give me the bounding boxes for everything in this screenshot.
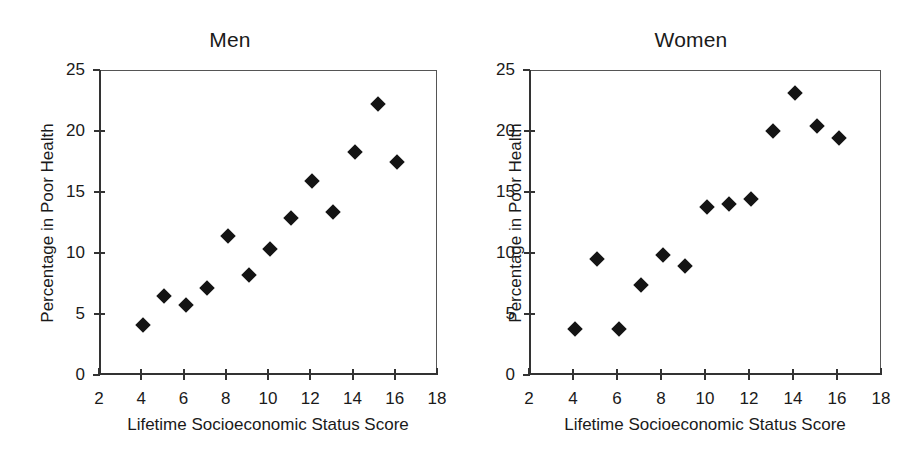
x-tick-label-men-12: 12 [301,389,320,409]
y-tick-women-10 [524,252,535,254]
y-tick-women-20 [524,130,535,132]
y-axis-line-women [529,70,531,375]
x-tick-label-women-12: 12 [740,389,759,409]
y-tick-label-men-10: 10 [25,243,85,263]
x-tick-label-women-4: 4 [568,389,577,409]
plot-area-men: 051015202524681012141618 [99,70,437,375]
x-tick-women-2 [528,368,530,375]
data-point [677,259,693,275]
data-point [241,267,257,283]
x-tick-women-10 [704,369,706,380]
x-tick-men-2 [98,368,100,375]
x-axis-title-women: Lifetime Socioeconomic Status Score [529,415,881,435]
x-tick-label-women-6: 6 [612,389,621,409]
data-point [262,242,278,258]
x-tick-label-women-10: 10 [696,389,715,409]
data-point [326,204,342,220]
x-tick-label-men-6: 6 [179,389,188,409]
data-point [283,210,299,226]
x-tick-label-men-4: 4 [137,389,146,409]
x-tick-label-men-14: 14 [343,389,362,409]
x-tick-label-women-16: 16 [828,389,847,409]
y-tick-label-men-20: 20 [25,121,85,141]
y-tick-label-women-0: 0 [455,365,515,385]
y-tick-label-women-10: 10 [455,243,515,263]
data-point [178,298,194,314]
x-tick-label-men-16: 16 [385,389,404,409]
y-tick-label-women-15: 15 [455,182,515,202]
x-tick-men-18 [436,368,438,375]
x-tick-label-women-18: 18 [872,389,891,409]
x-tick-label-men-18: 18 [428,389,447,409]
plot-top-rule [99,70,437,71]
data-point [611,321,627,337]
data-point [743,192,759,208]
plot-area-women: 051015202524681012141618 [529,70,881,375]
data-point [589,251,605,267]
x-tick-label-men-2: 2 [94,389,103,409]
y-tick-label-women-20: 20 [455,121,515,141]
data-point [655,248,671,264]
x-tick-men-4 [140,369,142,380]
scatter-plot-figure: Men Percentage in Poor Health 0510152025… [0,0,921,468]
x-tick-label-women-14: 14 [784,389,803,409]
x-tick-women-14 [792,369,794,380]
y-tick-men-25 [93,69,100,71]
data-point [721,196,737,212]
data-point [389,154,405,170]
data-point [765,123,781,139]
plot-right-rule [880,70,881,375]
data-point [305,173,321,189]
y-axis-line-men [99,70,101,375]
y-tick-women-5 [524,313,535,315]
x-tick-men-10 [267,369,269,380]
panel-men: Men Percentage in Poor Health 0510152025… [0,0,460,468]
data-point [831,131,847,147]
x-tick-men-6 [183,369,185,380]
y-tick-label-men-5: 5 [25,304,85,324]
data-point [220,228,236,244]
x-tick-women-12 [748,369,750,380]
x-tick-men-14 [352,369,354,380]
x-axis-title-men: Lifetime Socioeconomic Status Score [99,415,437,435]
y-tick-men-20 [94,130,105,132]
x-tick-label-women-8: 8 [656,389,665,409]
x-tick-label-women-2: 2 [524,389,533,409]
panel-title-men: Men [0,28,460,52]
x-tick-women-4 [572,369,574,380]
y-tick-men-5 [94,313,105,315]
data-point [787,85,803,101]
y-tick-label-men-15: 15 [25,182,85,202]
x-tick-label-men-8: 8 [221,389,230,409]
plot-top-rule [529,70,881,71]
data-point [809,118,825,134]
data-point [347,144,363,160]
x-tick-men-8 [225,369,227,380]
data-point [370,96,386,112]
data-point [699,199,715,215]
y-tick-men-15 [94,191,105,193]
x-tick-women-6 [616,369,618,380]
data-point [136,317,152,333]
data-point [567,321,583,337]
y-tick-women-15 [524,191,535,193]
y-tick-label-men-0: 0 [25,365,85,385]
data-point [157,288,173,304]
x-tick-women-16 [836,369,838,380]
y-tick-label-women-25: 25 [455,60,515,80]
y-tick-women-25 [523,69,530,71]
x-tick-men-16 [394,369,396,380]
data-point [199,281,215,297]
x-tick-women-18 [880,368,882,375]
panel-title-women: Women [461,28,921,52]
data-point [633,277,649,293]
y-tick-men-10 [94,252,105,254]
x-tick-men-12 [309,369,311,380]
plot-right-rule [436,70,437,375]
y-tick-label-men-25: 25 [25,60,85,80]
panel-women: Women Percentage in Poor Health 05101520… [461,0,921,468]
x-tick-label-men-10: 10 [259,389,278,409]
y-tick-label-women-5: 5 [455,304,515,324]
x-tick-women-8 [660,369,662,380]
